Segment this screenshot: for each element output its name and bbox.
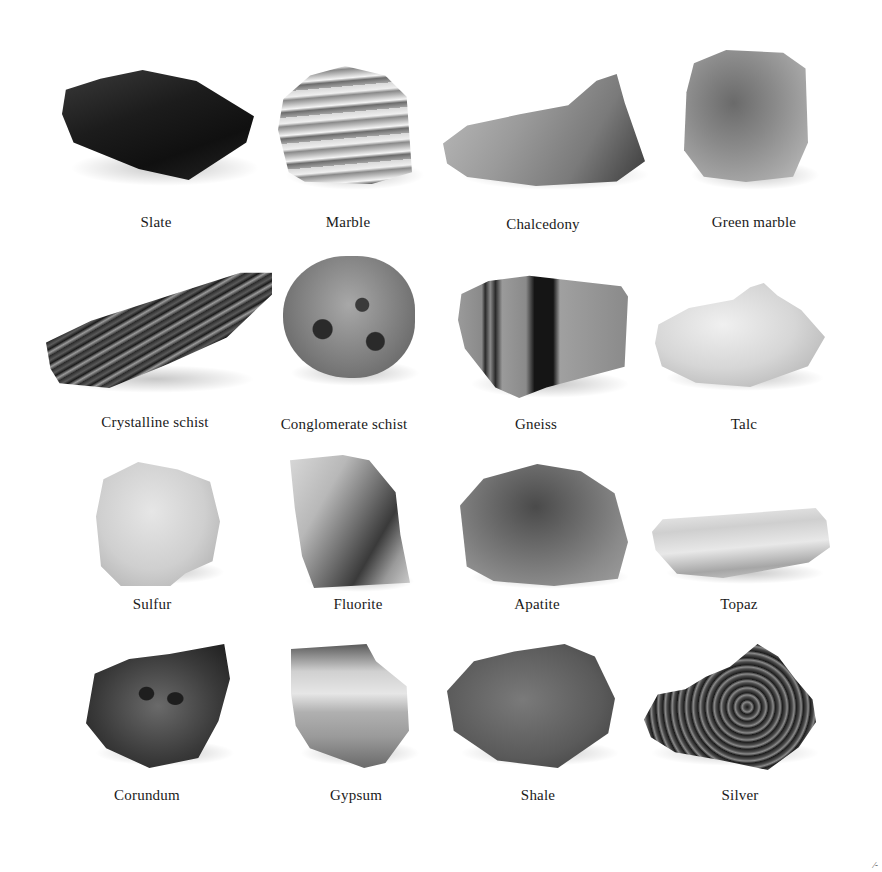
specimen-label-chalcedony: Chalcedony xyxy=(506,216,580,233)
apatite-specimen xyxy=(460,464,628,586)
specimen-label-marble: Marble xyxy=(326,214,371,231)
green-marble-specimen xyxy=(684,50,808,182)
specimen-label-sulfur: Sulfur xyxy=(133,596,172,613)
specimen-label-talc: Talc xyxy=(731,416,757,433)
marble-specimen xyxy=(278,66,412,184)
fluorite-specimen xyxy=(290,455,410,588)
specimen-label-gypsum: Gypsum xyxy=(330,787,382,804)
specimen-label-corundum: Corundum xyxy=(114,787,180,804)
corner-mark: ⁄- xyxy=(874,860,879,870)
specimen-label-gneiss: Gneiss xyxy=(515,416,557,433)
specimen-label-shale: Shale xyxy=(521,787,555,804)
conglomerate-schist-specimen xyxy=(283,256,415,378)
specimen-label-topaz: Topaz xyxy=(720,596,757,613)
specimen-label-apatite: Apatite xyxy=(514,596,560,613)
specimen-label-crystalline-schist: Crystalline schist xyxy=(101,414,208,431)
specimen-label-green-marble: Green marble xyxy=(712,214,796,231)
specimen-label-slate: Slate xyxy=(141,214,172,231)
chalcedony-specimen xyxy=(443,74,645,186)
specimen-label-silver: Silver xyxy=(721,787,758,804)
specimen-label-fluorite: Fluorite xyxy=(333,596,382,613)
specimen-label-conglomerate-schist: Conglomerate schist xyxy=(281,416,408,433)
